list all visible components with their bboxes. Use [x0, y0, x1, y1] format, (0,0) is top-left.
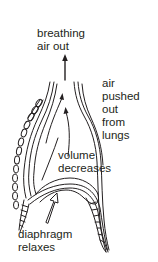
label-line: lungs: [102, 129, 140, 142]
label-line: decreases: [58, 162, 111, 175]
diaphragm-arrow-icon: [46, 193, 58, 223]
exhale-arrow-icon: [62, 54, 68, 80]
label-line: diaphragm: [18, 228, 72, 241]
label-line: relaxes: [18, 241, 72, 254]
label-line: from: [102, 116, 140, 129]
air-pushed-out-label: air pushed out from lungs: [102, 77, 140, 142]
label-line: out: [102, 103, 140, 116]
volume-decreases-label: volume decreases: [58, 149, 111, 175]
label-line: pushed: [102, 90, 140, 103]
lung-outline: [36, 178, 99, 204]
label-line: air out: [37, 40, 85, 53]
label-line: air: [102, 77, 140, 90]
label-line: volume: [58, 149, 111, 162]
label-line: breathing: [37, 27, 85, 40]
diaphragm-relaxes-label: diaphragm relaxes: [18, 228, 72, 254]
breathing-air-out-label: breathing air out: [37, 27, 85, 53]
